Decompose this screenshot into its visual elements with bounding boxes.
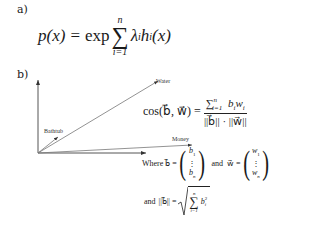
w-bottom-sub: n — [257, 173, 260, 178]
b-top-sub: 1 — [193, 152, 196, 157]
num-sum-upper: n — [214, 96, 218, 104]
w-vector: w1 ⋮ wn — [252, 146, 260, 180]
sqrt-icon — [178, 186, 188, 216]
norm-scripts: 2i — [205, 196, 208, 208]
and-word: and — [212, 159, 224, 168]
norm-radicand: n ∑ i=1 b2i — [188, 186, 210, 216]
cosine-lhs: cos(b⃗, w⃗) = — [143, 104, 201, 119]
w-top-sub: 1 — [257, 152, 260, 157]
w-left-paren: ( — [243, 146, 250, 180]
norm-sum-lower: i=1 — [190, 208, 197, 213]
w-dots: ⋮ — [252, 159, 260, 168]
b-vector: b1 ⋮ bn — [188, 146, 196, 180]
norm-sum-symbol: ∑ — [189, 196, 198, 208]
num-w-sub: i — [243, 104, 245, 112]
norm-and: and — [144, 197, 156, 206]
bathtub-vector — [38, 137, 58, 153]
w-right-paren: ) — [262, 146, 269, 180]
water-label: Water — [156, 78, 170, 84]
cosine-formula: cos(b⃗, w⃗) = ∑ni=1 biwi ||b⃗|| · ||w⃗|| — [143, 96, 247, 128]
money-label: Money — [172, 136, 189, 142]
norm-line: and ||b⃗|| = n ∑ i=1 b2i — [144, 186, 210, 216]
bathtub-label: Bathtub — [44, 128, 63, 134]
num-sum-lower: i=1 — [212, 104, 222, 112]
where-line: Where b⃗ = ( b1 ⋮ bn ) and w⃗ = ( w1 ⋮ w… — [142, 144, 271, 182]
norm-lhs: ||b⃗|| = — [159, 197, 177, 206]
water-vector — [38, 81, 158, 153]
b-bottom-sub: n — [193, 173, 196, 178]
b-def: b⃗ = — [165, 159, 177, 168]
cosine-fraction: ∑ni=1 biwi ||b⃗|| · ||w⃗|| — [204, 96, 247, 128]
cosine-numerator: ∑ni=1 biwi — [204, 96, 247, 114]
norm-sub: i — [205, 202, 208, 208]
cosine-denominator: ||b⃗|| · ||w⃗|| — [204, 114, 247, 128]
norm-sum: n ∑ i=1 — [189, 191, 198, 213]
b-dots: ⋮ — [188, 159, 196, 168]
b-left-paren: ( — [179, 146, 186, 180]
where-word: Where — [142, 159, 163, 168]
num-w: w — [235, 97, 242, 109]
b-right-paren: ) — [198, 146, 205, 180]
w-def: w⃗ = — [227, 159, 241, 168]
